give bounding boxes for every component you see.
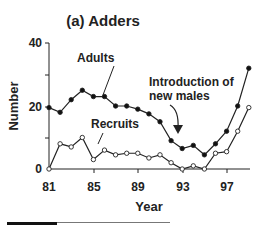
- x-tick-labels: 81 85 89 93 97: [42, 180, 234, 194]
- recruits-marker-icon: [247, 105, 251, 109]
- adults-marker-icon: [158, 120, 162, 124]
- recruits-marker-icon: [180, 167, 184, 171]
- svg-text:97: 97: [220, 180, 234, 194]
- recruits-marker-icon: [125, 151, 129, 155]
- svg-text:85: 85: [87, 180, 101, 194]
- recruits-marker-icon: [224, 149, 228, 153]
- y-ticks: [45, 43, 49, 138]
- annotation-line2: new males: [149, 89, 210, 103]
- adults-marker-icon: [169, 138, 173, 142]
- adults-marker-icon: [113, 104, 117, 108]
- adults-marker-icon: [47, 105, 51, 109]
- adults-marker-icon: [136, 107, 140, 111]
- recruits-marker-icon: [236, 129, 240, 133]
- adults-marker-icon: [180, 146, 184, 150]
- recruits-marker-icon: [113, 153, 117, 157]
- x-axis-label: Year: [135, 199, 162, 214]
- recruits-marker-icon: [213, 151, 217, 155]
- adults-label: Adults: [77, 51, 115, 65]
- recruits-marker-icon: [202, 167, 206, 171]
- svg-text:0: 0: [35, 162, 42, 176]
- adults-marker-icon: [69, 98, 73, 102]
- adults-marker-icon: [236, 104, 240, 108]
- recruits-label: Recruits: [91, 117, 139, 131]
- recruits-marker-icon: [91, 157, 95, 161]
- recruits-marker-icon: [147, 156, 151, 160]
- bottom-bar-light: [57, 222, 170, 223]
- adults-marker-icon: [202, 153, 206, 157]
- adults-leader-line: [103, 66, 114, 95]
- adults-marker-icon: [213, 142, 217, 146]
- recruits-marker-icon: [158, 153, 162, 157]
- adults-marker-icon: [102, 94, 106, 98]
- annotation-arrow-shaft: [170, 105, 178, 128]
- recruits-marker-icon: [136, 151, 140, 155]
- bottom-bar-dark: [7, 222, 57, 225]
- svg-text:89: 89: [131, 180, 145, 194]
- svg-text:40: 40: [29, 36, 43, 50]
- adults-marker-icon: [191, 143, 195, 147]
- recruits-leader-line: [98, 133, 103, 144]
- svg-text:81: 81: [42, 180, 56, 194]
- adults-marker-icon: [147, 112, 151, 116]
- x-ticks: [94, 169, 227, 173]
- recruits-marker-icon: [169, 161, 173, 165]
- svg-text:20: 20: [29, 100, 43, 114]
- svg-text:93: 93: [176, 180, 190, 194]
- y-tick-labels: 40 20 0: [29, 36, 43, 176]
- adults-marker-icon: [91, 94, 95, 98]
- adults-marker-icon: [58, 110, 62, 114]
- recruits-marker-icon: [47, 167, 51, 171]
- annotation-line1: Introduction of: [149, 75, 235, 89]
- adults-marker-icon: [125, 104, 129, 108]
- y-axis-label: Number: [6, 81, 21, 130]
- chart-title: (a) Adders: [66, 12, 140, 29]
- recruits-marker-icon: [102, 148, 106, 152]
- adults-marker-icon: [80, 88, 84, 92]
- annotation-arrow-head-icon: [173, 125, 183, 134]
- adults-marker-icon: [247, 66, 251, 70]
- recruits-marker-icon: [80, 135, 84, 139]
- adders-chart: (a) Adders 40 20 0 81 85 89 93 97 Year N…: [0, 0, 261, 225]
- recruits-marker-icon: [69, 145, 73, 149]
- adults-marker-icon: [224, 129, 228, 133]
- recruits-marker-icon: [58, 142, 62, 146]
- recruits-marker-icon: [191, 164, 195, 168]
